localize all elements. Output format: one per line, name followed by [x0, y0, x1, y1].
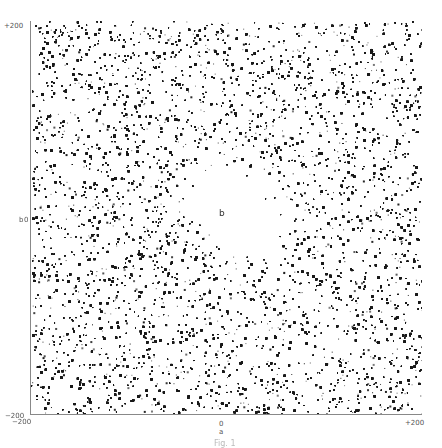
y-axis-label: b	[19, 216, 23, 224]
figure-caption: Fig. 1	[214, 440, 236, 448]
y-tick-top: +200	[4, 22, 23, 30]
center-annotation: b	[219, 208, 225, 218]
y-tick-mid: 0	[24, 216, 28, 224]
scatter-plot-area	[31, 21, 422, 414]
x-tick-left: −200	[12, 418, 31, 426]
x-tick-mid: 0	[219, 420, 223, 428]
x-axis-label: a	[219, 428, 223, 436]
x-tick-right: +200	[405, 419, 424, 427]
